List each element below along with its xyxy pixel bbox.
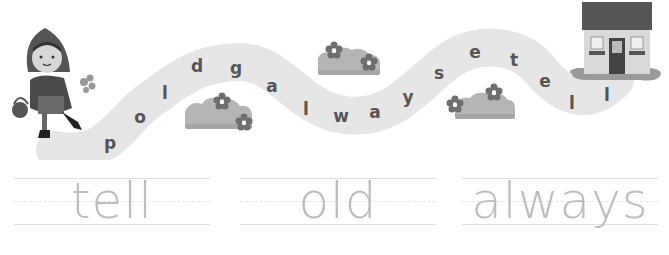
path-letter: w (333, 108, 349, 125)
path-letter: e (469, 44, 481, 61)
winding-path-illustration (0, 0, 669, 160)
path-letter: g (230, 60, 242, 77)
girl-character-icon (12, 28, 96, 138)
path-letter: o (134, 109, 146, 126)
path-letter: p (104, 135, 116, 152)
house-icon (570, 2, 661, 81)
path-letter: a (369, 104, 380, 121)
path-letter: l (569, 95, 575, 112)
path-letter: l (303, 101, 309, 118)
path-letter: l (162, 85, 168, 102)
trace-word-old: old (240, 172, 436, 232)
path-letter: y (402, 89, 413, 106)
bush-right (455, 93, 515, 119)
path-letter: l (604, 87, 610, 104)
trace-word-tell: tell (14, 172, 210, 232)
path-letter: d (191, 58, 203, 75)
path-letter: t (510, 52, 518, 69)
path-letter: e (539, 73, 551, 90)
path-letter: a (266, 78, 277, 95)
trace-word-text: tell (14, 174, 210, 228)
path-letter: s (434, 65, 444, 82)
trace-word-always: always (462, 172, 658, 232)
story-path-scene: p o l d g a l w a y s e t e l l (0, 0, 669, 160)
trace-word-text: always (462, 174, 658, 228)
trace-word-text: old (240, 174, 436, 228)
